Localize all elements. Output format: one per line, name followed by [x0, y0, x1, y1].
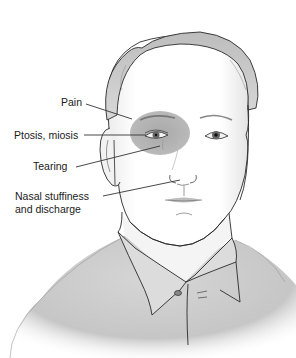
- cluster-headache-illustration: Pain Ptosis, miosis Tearing Nasal stuffi…: [0, 0, 296, 358]
- label-pain: Pain: [61, 96, 82, 108]
- label-ptosis-miosis: Ptosis, miosis: [14, 129, 78, 141]
- label-tearing: Tearing: [33, 160, 67, 172]
- collar-button: [175, 291, 182, 296]
- label-nasal-line2: and discharge: [15, 203, 81, 215]
- face-drawing: [0, 0, 296, 358]
- label-nasal-line1: Nasal stuffiness: [15, 190, 89, 202]
